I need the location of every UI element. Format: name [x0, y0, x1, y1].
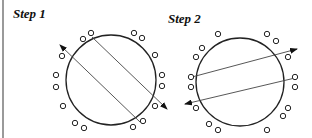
small-circle	[53, 84, 58, 89]
arrow-line	[60, 45, 140, 122]
small-circle	[292, 84, 297, 89]
small-circle	[285, 105, 290, 110]
arrow-line	[185, 78, 295, 104]
small-circle	[280, 113, 285, 118]
small-circle	[72, 120, 77, 125]
small-circle	[206, 121, 211, 126]
small-circle	[273, 38, 278, 43]
small-circle	[199, 45, 204, 50]
main-circle	[66, 35, 156, 125]
small-circle	[152, 52, 157, 57]
small-circle	[264, 127, 269, 132]
small-circle	[188, 74, 193, 79]
small-circle	[285, 54, 290, 59]
small-circle	[53, 72, 58, 77]
arrow-line	[192, 49, 297, 77]
small-circle	[59, 53, 64, 58]
small-circle	[81, 125, 86, 130]
small-circle	[60, 103, 65, 108]
step-2-figure	[185, 31, 298, 132]
small-circle	[193, 54, 198, 59]
small-circle	[215, 31, 220, 36]
small-circle	[130, 124, 135, 129]
step-1-figure	[53, 30, 167, 130]
small-circle	[159, 72, 164, 77]
small-circle	[139, 35, 144, 40]
small-circle	[80, 36, 85, 41]
small-circle	[152, 103, 157, 108]
small-circle	[188, 84, 193, 89]
small-circle	[292, 74, 297, 79]
small-circle	[159, 83, 164, 88]
small-circle	[88, 30, 93, 35]
small-circle	[131, 30, 136, 35]
circle-diagram	[0, 0, 312, 138]
small-circle	[215, 127, 220, 132]
small-circle	[264, 31, 269, 36]
small-circle	[140, 118, 145, 123]
main-circle	[196, 38, 284, 126]
small-circle	[193, 105, 198, 110]
